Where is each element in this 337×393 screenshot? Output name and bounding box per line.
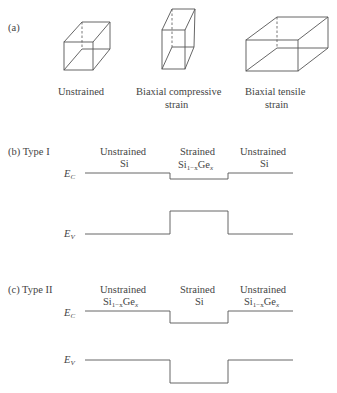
strain-band-diagram: (a) Unstrained Biaxial compressive strai… xyxy=(0,0,337,393)
c-valence-band xyxy=(85,360,293,383)
panel-b-label: (b) Type I xyxy=(8,146,50,158)
b-ec-label: EC xyxy=(63,168,75,181)
c-conduction-band xyxy=(85,311,293,323)
caption-tensile-1: Biaxial tensile xyxy=(245,86,306,97)
b-ev-label: EV xyxy=(63,228,75,241)
c-ec-label: EC xyxy=(63,307,75,320)
caption-compressive-2: strain xyxy=(165,99,189,110)
c-region3-line1: Unstrained xyxy=(240,284,287,295)
b-region1-line2: Si xyxy=(120,158,129,169)
compressive-box xyxy=(162,9,195,69)
c-region2-line2: Si xyxy=(195,296,204,307)
unstrained-cube xyxy=(64,22,110,70)
b-region3-line2: Si xyxy=(260,158,269,169)
b-region3-line1: Unstrained xyxy=(240,146,287,157)
b-region2-line2: Si1−xGex xyxy=(178,159,214,172)
caption-unstrained: Unstrained xyxy=(58,86,105,97)
b-valence-band xyxy=(85,211,293,234)
c-region1-line1: Unstrained xyxy=(100,284,147,295)
panel-c-label: (c) Type II xyxy=(8,284,53,296)
tensile-box xyxy=(246,17,328,71)
b-region2-line1: Strained xyxy=(180,146,216,157)
panel-a-label: (a) xyxy=(8,22,20,34)
c-ev-label: EV xyxy=(63,354,75,367)
c-region3-line2: Si1−xGex xyxy=(244,296,280,309)
caption-compressive-1: Biaxial compressive xyxy=(136,86,222,97)
caption-tensile-2: strain xyxy=(265,99,289,110)
b-conduction-band xyxy=(85,173,293,179)
b-region1-line1: Unstrained xyxy=(100,146,147,157)
c-region1-line2: Si1−xGex xyxy=(103,296,139,309)
c-region2-line1: Strained xyxy=(180,284,216,295)
